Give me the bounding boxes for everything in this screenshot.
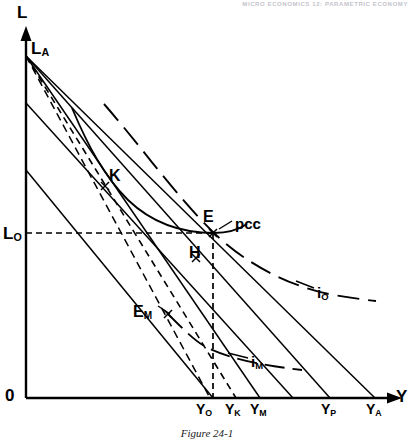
label-h-text: H	[189, 244, 201, 261]
tick-label-yp: YP	[321, 402, 336, 416]
tick-yp-sub: P	[330, 408, 336, 418]
label-e: E	[203, 209, 214, 225]
label-h: H	[189, 245, 201, 261]
budget-line-la-yo	[26, 56, 210, 398]
tick-yk-sub: K	[234, 408, 240, 418]
leader-lines-group	[158, 221, 314, 358]
tick-ya-sub: A	[375, 408, 381, 418]
budget-lines-group	[26, 56, 375, 398]
tick-label-yo: YO	[196, 402, 212, 416]
indifference-curve-i0	[104, 104, 376, 301]
dashed-steep-line-group	[26, 56, 210, 398]
origin-label: 0	[5, 387, 14, 404]
dashed-budget-lines-group	[26, 56, 236, 398]
tick-yp-text: Y	[321, 401, 330, 417]
y-axis-arrowhead	[21, 26, 32, 41]
label-la: LA	[31, 40, 49, 57]
label-k: K	[109, 168, 121, 184]
indifference-curve-i0-group	[104, 104, 376, 301]
label-i0: iO	[317, 285, 329, 300]
budget-line-la-ya	[26, 56, 375, 398]
label-i0-sub: O	[321, 291, 328, 302]
tick-label-yk: YK	[225, 402, 241, 416]
figure-24-1: MICRO ECONOMICS 12: PARAMETRIC ECONOMY	[0, 0, 414, 444]
budget-line-la-yk	[26, 56, 236, 398]
label-im-sub: M	[255, 360, 263, 371]
budget-line-la-yp	[26, 56, 330, 398]
label-pcc-text: pcc	[235, 215, 261, 232]
label-em: EM	[133, 304, 152, 320]
label-em-sub: M	[144, 310, 152, 321]
x-axis-label: Y	[396, 388, 407, 405]
label-k-text: K	[109, 167, 121, 184]
tick-yo-sub: O	[205, 408, 212, 418]
tick-yk-text: Y	[225, 401, 234, 417]
label-l0-sub: O	[13, 231, 21, 243]
label-l0: LO	[3, 225, 22, 242]
figure-caption: Figure 24-1	[0, 427, 414, 439]
tick-label-ya: YA	[366, 402, 382, 416]
tick-ya-text: Y	[366, 401, 375, 417]
tick-label-ym: YM	[250, 402, 267, 416]
label-la-sub: A	[41, 46, 49, 58]
line-from-l-lower	[26, 170, 213, 398]
label-em-text: E	[133, 303, 144, 320]
budget-line-la-ym	[26, 56, 260, 398]
leader-pcc	[219, 221, 232, 229]
tick-yo-text: Y	[196, 401, 205, 417]
tick-ym-text: Y	[250, 401, 259, 417]
tick-ym-sub: M	[259, 408, 266, 418]
y-axis-label: L	[17, 4, 27, 21]
label-la-text: L	[31, 39, 41, 58]
label-im: iM	[251, 354, 263, 369]
label-e-text: E	[203, 208, 214, 225]
label-pcc: pcc	[235, 216, 261, 231]
label-l0-text: L	[3, 224, 13, 243]
